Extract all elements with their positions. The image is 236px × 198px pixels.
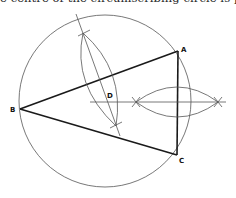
cross-mark-bottom: [110, 122, 122, 128]
side-bc: [20, 109, 177, 155]
label-b: B: [10, 106, 15, 114]
side-ba: [20, 51, 178, 109]
label-a: A: [181, 46, 187, 54]
geometry-diagram: A B C D: [0, 0, 236, 198]
label-d: D: [107, 92, 113, 100]
label-c: C: [179, 157, 184, 165]
circumscribed-circle: [19, 15, 191, 187]
side-ac: [177, 51, 178, 155]
